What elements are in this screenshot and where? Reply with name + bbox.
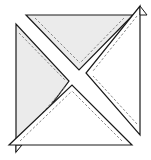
- diagram-canvas: [0, 0, 151, 160]
- quilt-block-diagram: [0, 0, 151, 160]
